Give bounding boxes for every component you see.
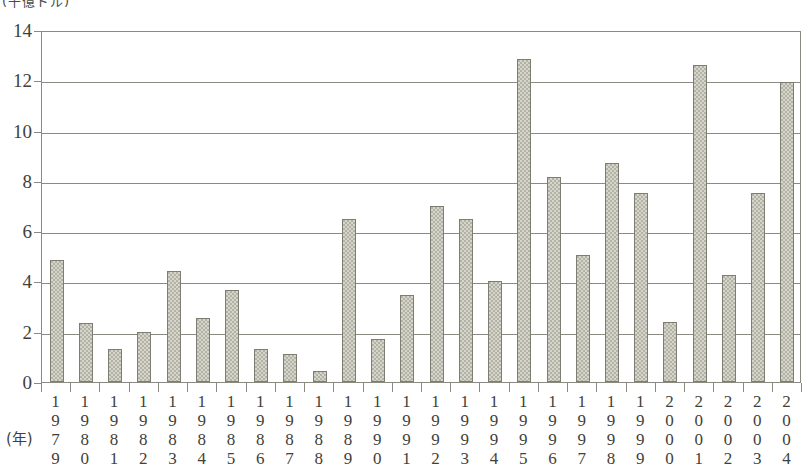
x-tick-label-digit: 1 xyxy=(364,392,390,411)
x-tick-label-digit: 7 xyxy=(276,449,302,468)
x-tick-label-digit: 8 xyxy=(130,430,156,449)
x-tick-mark xyxy=(99,383,100,392)
x-tick-label-digit: 9 xyxy=(218,411,244,430)
x-tick-mark xyxy=(275,383,276,392)
bar-chart: (千億ドル) 02468101214 197919801981198219831… xyxy=(0,0,809,471)
bar xyxy=(547,177,561,382)
x-axis-labels: 1979198019811982198319841985198619871988… xyxy=(41,392,801,471)
x-tick-label-digit: 9 xyxy=(540,430,566,449)
x-tick-label-digit: 5 xyxy=(218,449,244,468)
x-tick-label: 1988 xyxy=(306,392,332,468)
x-tick-mark xyxy=(509,383,510,392)
x-tick-label-digit: 2 xyxy=(744,392,770,411)
x-tick-label-digit: 0 xyxy=(656,449,682,468)
bar xyxy=(663,322,677,382)
x-tick-label-digit: 0 xyxy=(364,449,390,468)
x-tick-label-digit: 2 xyxy=(656,392,682,411)
bar xyxy=(488,281,502,382)
x-tick-label-digit: 9 xyxy=(481,411,507,430)
x-tick-label-digit: 3 xyxy=(160,449,186,468)
bar xyxy=(225,290,239,382)
x-tick-label: 1979 xyxy=(43,392,69,468)
bar xyxy=(459,219,473,382)
x-tick-mark xyxy=(246,383,247,392)
bar xyxy=(722,275,736,382)
x-tick-label-digit: 1 xyxy=(130,392,156,411)
x-tick-label-digit: 1 xyxy=(247,392,273,411)
x-tick-label-digit: 9 xyxy=(452,411,478,430)
x-tick-label-digit: 0 xyxy=(72,449,98,468)
x-tick-label-digit: 8 xyxy=(72,430,98,449)
x-tick-label: 1999 xyxy=(627,392,653,468)
bar xyxy=(780,82,794,382)
x-tick-label-digit: 1 xyxy=(393,449,419,468)
x-tick-mark xyxy=(363,383,364,392)
x-tick-label: 1989 xyxy=(335,392,361,468)
y-tick-mark xyxy=(34,182,41,183)
x-tick-label-digit: 2 xyxy=(130,449,156,468)
bar xyxy=(50,260,64,382)
x-tick-mark xyxy=(655,383,656,392)
x-tick-label-digit: 9 xyxy=(335,411,361,430)
x-tick-label-digit: 1 xyxy=(160,392,186,411)
x-tick-label-digit: 2 xyxy=(423,449,449,468)
x-tick-mark xyxy=(801,383,802,392)
bar xyxy=(167,271,181,382)
x-tick-label-digit: 1 xyxy=(276,392,302,411)
bar xyxy=(693,65,707,382)
x-tick-label-digit: 5 xyxy=(510,449,536,468)
x-tick-label-digit: 3 xyxy=(744,449,770,468)
bar xyxy=(283,354,297,382)
x-tick-label-digit: 8 xyxy=(218,430,244,449)
bar xyxy=(430,206,444,382)
x-tick-label-digit: 8 xyxy=(306,430,332,449)
y-tick-mark xyxy=(34,383,41,384)
x-tick-label: 1993 xyxy=(452,392,478,468)
x-tick-mark xyxy=(421,383,422,392)
x-tick-label: 1987 xyxy=(276,392,302,468)
x-tick-mark xyxy=(626,383,627,392)
x-tick-mark xyxy=(567,383,568,392)
x-tick-label-digit: 8 xyxy=(598,449,624,468)
bar xyxy=(313,371,327,382)
x-tick-label-digit: 0 xyxy=(686,411,712,430)
x-tick-label: 2003 xyxy=(744,392,770,468)
x-tick-label-digit: 1 xyxy=(72,392,98,411)
x-tick-mark xyxy=(158,383,159,392)
x-tick-label: 1998 xyxy=(598,392,624,468)
x-tick-label-digit: 1 xyxy=(510,392,536,411)
x-tick-label-digit: 9 xyxy=(43,411,69,430)
y-tick-label: 14 xyxy=(0,20,32,42)
x-tick-label-digit: 1 xyxy=(101,449,127,468)
x-tick-label-digit: 9 xyxy=(598,430,624,449)
x-tick-label: 1981 xyxy=(101,392,127,468)
x-tick-label: 1992 xyxy=(423,392,449,468)
x-tick-mark xyxy=(41,383,42,392)
x-tick-label-digit: 2 xyxy=(773,392,799,411)
x-tick-mark xyxy=(187,383,188,392)
bar xyxy=(634,193,648,382)
y-tick-label: 4 xyxy=(0,271,32,293)
x-tick-label-digit: 1 xyxy=(452,392,478,411)
x-tick-label-digit: 2 xyxy=(715,449,741,468)
x-tick-mark xyxy=(70,383,71,392)
x-tick-label-digit: 2 xyxy=(686,392,712,411)
x-tick-label-digit: 1 xyxy=(189,392,215,411)
x-tick-label: 1996 xyxy=(540,392,566,468)
x-tick-label-digit: 9 xyxy=(481,430,507,449)
x-tick-label-digit: 1 xyxy=(686,449,712,468)
x-tick-label-digit: 1 xyxy=(598,392,624,411)
x-tick-label-digit: 1 xyxy=(393,392,419,411)
x-tick-mark xyxy=(216,383,217,392)
x-tick-label-digit: 8 xyxy=(189,430,215,449)
x-tick-mark xyxy=(684,383,685,392)
x-tick-label-digit: 1 xyxy=(43,392,69,411)
x-tick-label-digit: 9 xyxy=(423,430,449,449)
x-tick-label-digit: 9 xyxy=(569,430,595,449)
x-tick-label-digit: 9 xyxy=(423,411,449,430)
x-tick-mark xyxy=(129,383,130,392)
x-tick-label-digit: 1 xyxy=(627,392,653,411)
x-tick-label-digit: 0 xyxy=(744,430,770,449)
x-tick-label: 2001 xyxy=(686,392,712,468)
x-tick-label: 1985 xyxy=(218,392,244,468)
